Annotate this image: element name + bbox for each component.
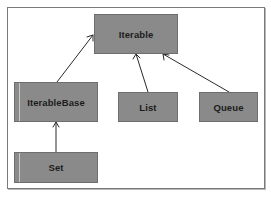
node-set[interactable]: Set — [14, 152, 98, 183]
node-iterablebase[interactable]: IterableBase — [14, 82, 98, 122]
node-label: Queue — [213, 102, 243, 113]
node-label: List — [139, 102, 156, 113]
node-edge-highlight — [19, 153, 20, 182]
node-label: Iterable — [119, 29, 154, 40]
node-queue[interactable]: Queue — [199, 92, 258, 122]
node-list[interactable]: List — [118, 92, 178, 122]
node-edge-highlight — [19, 83, 20, 121]
node-label: IterableBase — [27, 97, 85, 108]
node-iterable[interactable]: Iterable — [94, 14, 178, 54]
node-label: Set — [48, 162, 63, 173]
